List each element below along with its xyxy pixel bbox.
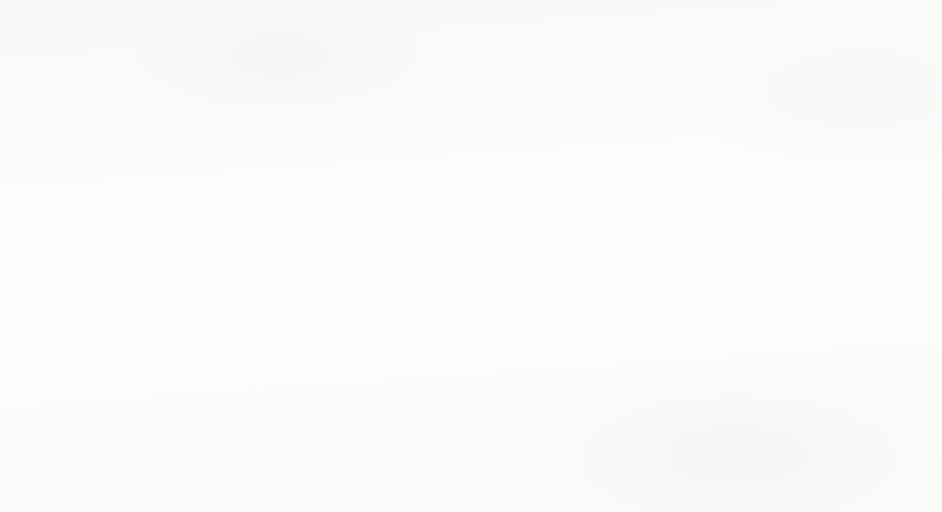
bar-chart-figure: 0123456 Democracy and Human RightsSexual… (0, 0, 942, 512)
y-tick-mark-5 (134, 81, 141, 82)
y-tick-mark-3 (134, 157, 141, 158)
y-tick-mark-2 (134, 194, 141, 195)
y-tick-mark-4 (134, 119, 141, 120)
x-axis-category-labels: Democracy and Human RightsSexual Orienta… (0, 0, 942, 512)
y-tick-mark-0 (134, 270, 141, 271)
y-tick-mark-6 (134, 43, 141, 44)
y-tick-mark-1 (134, 232, 141, 233)
